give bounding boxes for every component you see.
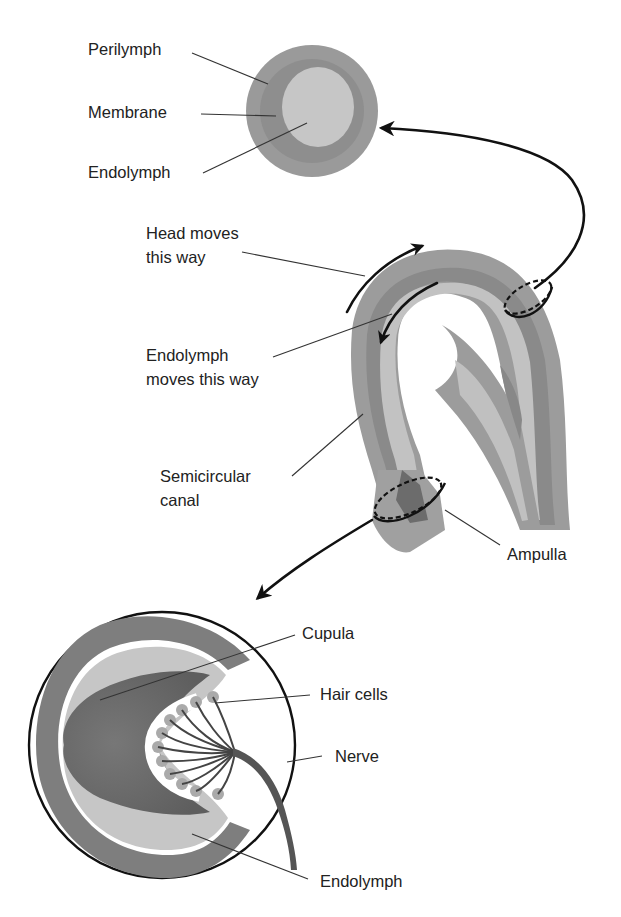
- label-perilymph: Perilymph: [88, 40, 161, 58]
- label-semicircular-2: canal: [160, 491, 199, 509]
- label-endolymph-top: Endolymph: [88, 163, 171, 181]
- canal-group: Head moves this way Endolymph moves this…: [146, 224, 570, 563]
- label-hair-cells: Hair cells: [320, 685, 388, 703]
- label-endolymph-moves-1: Endolymph: [146, 346, 229, 364]
- endolymph-core: [282, 67, 354, 147]
- label-endolymph-moves-2: moves this way: [146, 370, 260, 388]
- ampulla-detail-group: Cupula Hair cells Nerve Endolymph: [29, 612, 403, 890]
- label-head-moves-2: this way: [146, 248, 206, 266]
- label-semicircular-1: Semicircular: [160, 467, 251, 485]
- connector-arrow-bottom: [258, 520, 372, 598]
- cross-section-group: Perilymph Membrane Endolymph: [88, 40, 378, 181]
- semicircular-canal-diagram: Perilymph Membrane Endolymph: [0, 0, 621, 917]
- label-cupula: Cupula: [302, 624, 355, 642]
- label-membrane: Membrane: [88, 103, 167, 121]
- label-endolymph-bottom: Endolymph: [320, 872, 403, 890]
- label-ampulla: Ampulla: [507, 545, 567, 563]
- label-head-moves-1: Head moves: [146, 224, 239, 242]
- label-nerve: Nerve: [335, 747, 379, 765]
